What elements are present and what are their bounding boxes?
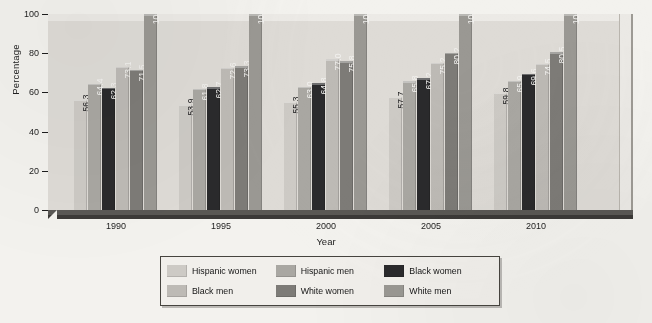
bar: 64.4	[88, 84, 101, 210]
legend-grid: Hispanic womenHispanic menBlack womenBla…	[167, 261, 493, 301]
axis-floor	[48, 210, 633, 219]
y-axis-tick: 40	[4, 126, 48, 138]
y-axis-title: Percentage	[10, 24, 21, 116]
legend-item-label: Black women	[409, 266, 461, 276]
bar: 63.0	[298, 87, 311, 210]
bar: 73.1	[116, 67, 129, 210]
y-axis-tick: 100	[4, 8, 48, 20]
bar-value-label: 100	[466, 10, 476, 24]
bar-group: 57.765.867.275.280.2100	[389, 14, 473, 210]
bar: 59.8	[494, 93, 507, 210]
y-axis-tick-label: 100	[24, 9, 39, 19]
legend: Hispanic womenHispanic menBlack womenBla…	[160, 256, 500, 306]
legend-item[interactable]: Hispanic men	[276, 265, 385, 277]
bar: 71.5	[130, 70, 143, 210]
floor-shadow	[48, 215, 633, 219]
bar: 77.0	[326, 59, 339, 210]
bar-value-label: 100	[571, 10, 581, 24]
bar-value-label: 100	[151, 10, 161, 24]
bar: 56.3	[74, 100, 87, 210]
bar-group: 56.364.462.373.171.5100	[74, 14, 158, 210]
legend-item[interactable]: White women	[276, 285, 385, 297]
bar: 100	[144, 14, 157, 210]
bar: 62.3	[102, 88, 115, 210]
legend-item-label: White men	[409, 286, 451, 296]
x-axis-tick-label: 2010	[501, 221, 571, 231]
legend-swatch	[167, 285, 187, 297]
bar: 69.6	[522, 74, 535, 210]
legend-item-label: Hispanic women	[192, 266, 257, 276]
bar: 100	[564, 14, 577, 210]
y-axis-tick: 20	[4, 165, 48, 177]
bar: 67.2	[417, 78, 430, 210]
y-axis-tick: 0	[4, 204, 48, 216]
bar: 75.2	[431, 63, 444, 210]
bar: 80.5	[550, 52, 563, 210]
bar-group: 53.961.862.772.673.3100	[179, 14, 263, 210]
legend-swatch	[276, 285, 296, 297]
bar: 100	[459, 14, 472, 210]
bar: 53.9	[179, 104, 192, 210]
legend-swatch	[384, 265, 404, 277]
bar-chart: Percentage 100806040200 56.364.462.373.1…	[0, 0, 652, 323]
x-axis-tick-label: 1995	[186, 221, 256, 231]
bar: 72.6	[221, 68, 234, 210]
legend-swatch	[167, 265, 187, 277]
bar: 65.9	[508, 81, 521, 210]
x-axis-title: Year	[0, 236, 652, 247]
legend-item-label: Hispanic men	[301, 266, 354, 276]
bar-value-label: 100	[256, 10, 266, 24]
y-axis-tick: 60	[4, 86, 48, 98]
legend-item[interactable]: Black men	[167, 285, 276, 297]
bar: 75.8	[340, 61, 353, 210]
y-axis-tick-label: 40	[29, 127, 39, 137]
bar: 73.3	[235, 66, 248, 210]
legend-item[interactable]: White men	[384, 285, 493, 297]
bar-value-label: 100	[361, 10, 371, 24]
bar-group: 59.865.969.674.580.5100	[494, 14, 578, 210]
bar: 100	[354, 14, 367, 210]
y-axis-tick-label: 0	[34, 205, 39, 215]
y-axis: Percentage 100806040200	[0, 0, 48, 210]
plot-right-wall	[619, 14, 633, 210]
y-axis-tick-label: 20	[29, 166, 39, 176]
bar: 74.5	[536, 64, 549, 210]
x-axis-tick-label: 2005	[396, 221, 466, 231]
bar: 64.8	[312, 83, 325, 210]
legend-swatch	[276, 265, 296, 277]
legend-swatch	[384, 285, 404, 297]
y-axis-tick-label: 60	[29, 87, 39, 97]
plot-right-edge	[631, 14, 633, 210]
bar: 61.8	[193, 89, 206, 210]
x-axis-tick-label: 1990	[81, 221, 151, 231]
plot-area: 56.364.462.373.171.510053.961.862.772.67…	[48, 14, 633, 210]
x-axis-tick-label: 2000	[291, 221, 361, 231]
bar: 57.7	[389, 97, 402, 210]
y-axis-tick-label: 80	[29, 48, 39, 58]
bar: 100	[249, 14, 262, 210]
floor-left-bevel	[48, 210, 57, 219]
bar: 80.2	[445, 53, 458, 210]
bar: 62.7	[207, 87, 220, 210]
legend-item[interactable]: Hispanic women	[167, 265, 276, 277]
legend-item-label: White women	[301, 286, 354, 296]
bar-group: 55.363.064.877.075.8100	[284, 14, 368, 210]
legend-item[interactable]: Black women	[384, 265, 493, 277]
bar: 65.8	[403, 81, 416, 210]
y-axis-tick: 80	[4, 47, 48, 59]
bar: 55.3	[284, 102, 297, 210]
legend-item-label: Black men	[192, 286, 233, 296]
bar-groups: 56.364.462.373.171.510053.961.862.772.67…	[48, 14, 620, 210]
